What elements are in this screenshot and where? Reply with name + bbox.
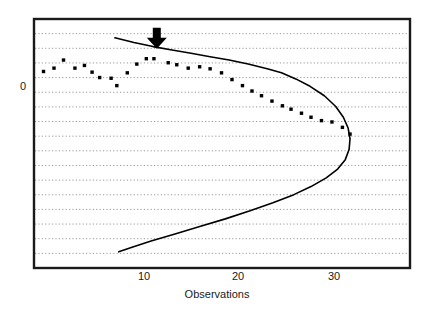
data-point	[109, 77, 112, 80]
chart-figure: 0 10 20 30 Observations	[0, 0, 434, 314]
data-point	[73, 66, 76, 69]
data-point	[309, 116, 312, 119]
x-axis-label: Observations	[0, 288, 434, 300]
data-point	[208, 67, 211, 70]
data-point	[330, 120, 333, 123]
data-point	[167, 61, 170, 64]
data-point	[260, 94, 263, 97]
data-point	[135, 62, 138, 65]
data-point	[341, 126, 344, 129]
data-point	[115, 84, 118, 87]
data-point	[300, 112, 303, 115]
data-point	[126, 71, 129, 74]
data-point	[250, 89, 253, 92]
data-point	[281, 104, 284, 107]
data-point	[220, 71, 223, 74]
x-tick-label-30: 30	[314, 270, 354, 282]
data-point	[348, 132, 351, 135]
data-point	[98, 76, 101, 79]
data-point	[270, 99, 273, 102]
data-point	[62, 58, 65, 61]
data-point	[289, 107, 292, 110]
data-point	[145, 57, 148, 60]
data-point	[83, 64, 86, 67]
x-tick-label-10: 10	[124, 270, 164, 282]
data-point	[52, 66, 55, 69]
data-point	[241, 84, 244, 87]
data-point	[175, 63, 178, 66]
y-tick-label-0: 0	[2, 80, 26, 92]
data-point	[230, 78, 233, 81]
data-point	[42, 70, 45, 73]
x-tick-label-20: 20	[218, 270, 258, 282]
data-point	[90, 70, 93, 73]
plot-background	[34, 19, 410, 268]
data-point	[320, 119, 323, 122]
plot-area	[0, 0, 434, 314]
data-point	[152, 57, 155, 60]
data-point	[198, 65, 201, 68]
data-point	[187, 66, 190, 69]
